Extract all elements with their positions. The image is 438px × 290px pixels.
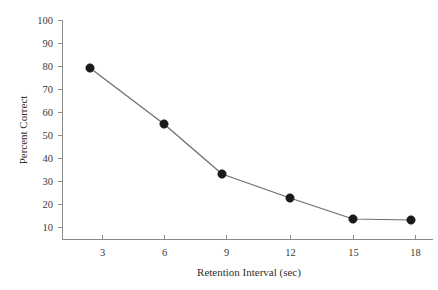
x-axis-ticks: 3 6 9 12 15 18	[100, 235, 421, 259]
data-point	[286, 194, 294, 202]
series-line	[90, 68, 411, 220]
data-point	[407, 216, 415, 224]
x-tick-label: 3	[100, 247, 105, 258]
y-tick-label: 30	[43, 176, 54, 187]
data-point	[86, 64, 94, 72]
y-axis-ticks: 100 90 80 70 60 50 40 30 20 10	[37, 15, 62, 233]
data-series-percent-correct	[86, 64, 415, 224]
y-tick-label: 40	[43, 153, 54, 164]
data-point	[160, 120, 168, 128]
data-point	[218, 170, 226, 178]
y-tick-label: 10	[43, 222, 54, 233]
x-tick-label: 18	[410, 247, 421, 258]
y-tick-label: 50	[43, 130, 54, 141]
data-point	[349, 215, 357, 223]
line-chart-plot: 100 90 80 70 60 50 40 30 20 10 3	[0, 0, 438, 290]
y-tick-label: 90	[43, 38, 54, 49]
y-tick-label: 60	[43, 107, 54, 118]
y-axis-title: Percent Correct	[17, 96, 29, 165]
y-tick-label: 100	[37, 15, 53, 26]
y-tick-label: 80	[43, 61, 54, 72]
axes-group	[63, 20, 433, 240]
x-tick-label: 6	[162, 247, 167, 258]
x-axis-title: Retention Interval (sec)	[197, 266, 301, 279]
chart-figure: 100 90 80 70 60 50 40 30 20 10 3	[0, 0, 438, 290]
y-tick-label: 70	[43, 84, 54, 95]
x-tick-label: 12	[285, 247, 296, 258]
x-tick-label: 15	[348, 247, 359, 258]
y-tick-label: 20	[43, 199, 54, 210]
x-tick-label: 9	[224, 247, 229, 258]
